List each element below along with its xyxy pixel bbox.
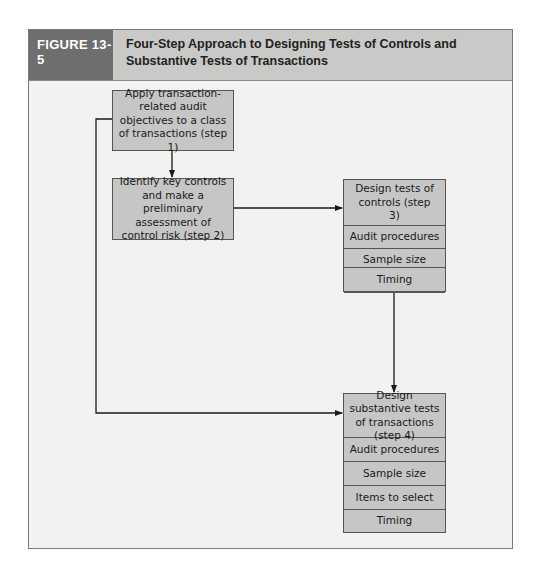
connector-lines [0, 0, 540, 578]
step3-header: Design tests of controls (step 3) [344, 180, 445, 225]
step3-timing-cell: Timing [344, 268, 445, 291]
step1-text: Apply transaction-related audit objectiv… [117, 87, 229, 155]
step3-timing-row: Timing [343, 267, 446, 292]
step4-header-text: Design substantive tests of transactions… [346, 389, 443, 443]
step3-timing-text: Timing [377, 273, 412, 287]
step4-row-text: Sample size [363, 467, 426, 481]
step3-row-timing: Timing [344, 292, 445, 293]
step3-row-text: Sample size [363, 253, 426, 267]
step3-row-audit-procedures: Audit procedures [344, 225, 445, 248]
step3-header-text: Design tests of controls (step 3) [354, 182, 435, 223]
arrow-step1-to-step4 [96, 119, 342, 413]
step4-row-sample-size: Sample size [344, 461, 445, 485]
step3-row-text: Audit procedures [350, 230, 440, 244]
step4-row-items-to-select: Items to select [344, 485, 445, 509]
step1-box: Apply transaction-related audit objectiv… [112, 90, 234, 151]
step2-box: Identify key controls and make a prelimi… [112, 178, 234, 240]
step4-row-text: Audit procedures [350, 443, 440, 457]
step2-text: Identify key controls and make a prelimi… [117, 175, 229, 243]
step4-header: Design substantive tests of transactions… [344, 394, 445, 437]
step4-column: Design substantive tests of transactions… [343, 393, 446, 533]
step4-row-text: Items to select [356, 491, 434, 505]
step4-row-text: Timing [377, 514, 412, 528]
step3-row-text: Timing [377, 292, 412, 293]
step4-row-timing: Timing [344, 509, 445, 532]
